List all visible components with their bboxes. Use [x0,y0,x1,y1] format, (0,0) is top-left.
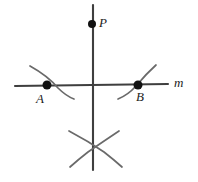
point-a-dot [43,81,52,90]
point-p-label: P [99,16,107,29]
point-b-label: B [136,90,144,103]
point-a-label: A [36,92,44,105]
point-p-dot [88,20,96,28]
geometry-figure: P A B m [0,0,198,182]
line-m-label: m [174,76,183,89]
construction-lines [15,5,168,170]
line-m [15,84,168,86]
